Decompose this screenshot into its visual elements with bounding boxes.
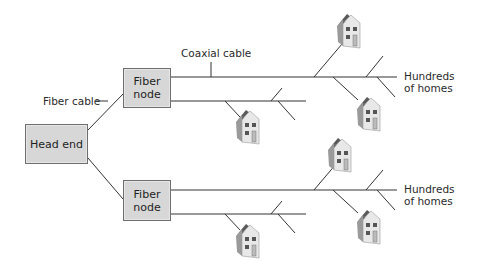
- fiber-node-label-line2: node: [133, 201, 160, 214]
- fiber-node-bottom-box: Fiber node: [123, 180, 171, 221]
- house-icon: [354, 208, 384, 246]
- house-icon: [233, 108, 263, 146]
- house-icon: [325, 136, 355, 174]
- coaxial-cable-label: Coaxial cable: [181, 47, 251, 59]
- hundreds-of-homes-top: Hundreds of homes: [404, 70, 455, 94]
- fiber-cable-label: Fiber cable: [43, 95, 100, 107]
- head-end-label: Head end: [30, 138, 83, 151]
- hfc-network-diagram: Head end Fiber node Fiber node Fiber cab…: [0, 0, 482, 273]
- fiber-cable-bottom: [88, 158, 123, 199]
- house-icon: [354, 95, 384, 133]
- homes-label-line2: of homes: [404, 82, 455, 94]
- house-icon: [233, 222, 263, 260]
- fiber-node-top-box: Fiber node: [123, 68, 171, 108]
- house-icon: [334, 12, 364, 50]
- homes-label-line1: Hundreds: [404, 70, 455, 82]
- fiber-node-label-line1: Fiber: [134, 188, 161, 201]
- hundreds-of-homes-bottom: Hundreds of homes: [404, 183, 455, 207]
- head-end-box: Head end: [25, 124, 88, 164]
- homes-label-line2: of homes: [404, 195, 455, 207]
- homes-label-line1: Hundreds: [404, 183, 455, 195]
- fiber-node-label-line1: Fiber: [134, 75, 161, 88]
- fiber-node-label-line2: node: [133, 88, 160, 101]
